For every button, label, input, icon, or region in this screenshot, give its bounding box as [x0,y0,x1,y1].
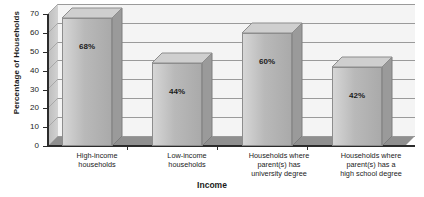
bar-high-school-degree[interactable]: 42% [332,0,382,146]
ytick-mark-20 [43,108,48,109]
category-label-university-degree: Households where parent(s) has universit… [230,151,328,179]
xtick-2 [217,146,218,150]
bar-value-1: 68% [62,42,112,51]
bar-university-degree[interactable]: 60% [242,0,292,146]
ytick-label-0: 0 [19,141,39,150]
category-line: high school degree [322,169,420,178]
side-wall-gridlines [48,4,58,146]
bar-value-3: 60% [242,57,292,66]
category-label-high-school-degree: Households where parent(s) has a high sc… [322,151,420,179]
ytick-mark-0 [43,146,48,147]
x-axis-title: Income [0,180,424,190]
ytick-label-40: 40 [19,66,39,75]
category-line: households [142,160,232,169]
category-line: parent(s) has [230,160,328,169]
ytick-mark-10 [43,127,48,128]
y-axis-title: Percentage of Households [12,0,21,133]
ytick-label-60: 60 [19,28,39,37]
bar-value-2: 44% [152,87,202,96]
category-line: Low-income [142,151,232,160]
category-line: Households where [322,151,420,160]
ytick-label-10: 10 [19,122,39,131]
xtick-1 [127,146,128,150]
bar-high-income[interactable]: 68% [62,0,112,146]
category-line: households [52,160,142,169]
ytick-mark-30 [43,90,48,91]
ytick-mark-60 [43,33,48,34]
ytick-mark-40 [43,71,48,72]
bar-low-income[interactable]: 44% [152,0,202,146]
ytick-label-30: 30 [19,85,39,94]
category-line: university degree [230,169,328,178]
category-line: Households where [230,151,328,160]
category-label-low-income: Low-income households [142,151,232,169]
xtick-3 [307,146,308,150]
category-line: High-income [52,151,142,160]
x-axis-depth-line [47,145,57,147]
ytick-label-50: 50 [19,47,39,56]
ytick-mark-70 [43,14,48,15]
ytick-mark-50 [43,52,48,53]
bar-chart: 70 60 50 40 30 20 10 0 68% 44% [0,0,424,197]
ytick-label-20: 20 [19,103,39,112]
ytick-label-70: 70 [19,9,39,18]
plot-area: 70 60 50 40 30 20 10 0 68% 44% [0,0,424,197]
category-label-high-income: High-income households [52,151,142,169]
bar-value-4: 42% [332,91,382,100]
category-line: parent(s) has a [322,160,420,169]
